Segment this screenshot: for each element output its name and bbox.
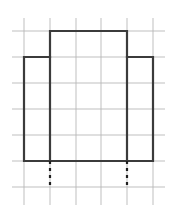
cross-polygon-outline: [24, 31, 153, 161]
dashed-guides-layer: [50, 161, 127, 188]
grid-figure-svg: [0, 0, 177, 214]
figure-canvas: [0, 0, 177, 214]
grid-layer: [12, 18, 165, 205]
shape-layer: [24, 31, 153, 161]
